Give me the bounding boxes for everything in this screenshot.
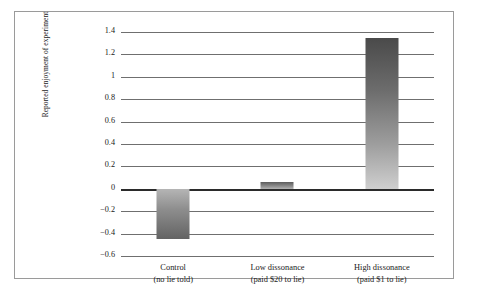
gridline xyxy=(121,256,434,257)
x-category-line1: Low dissonance xyxy=(250,263,304,272)
y-tick-label: −0.6 xyxy=(100,250,115,259)
y-tick-label: 0 xyxy=(111,183,115,192)
bar-low-dissonance[interactable] xyxy=(261,182,294,189)
bar-series xyxy=(121,32,434,256)
x-category-control: Control (no lie told) xyxy=(121,262,225,285)
y-tick-label: 0.4 xyxy=(105,138,115,147)
y-tick-label: 0.8 xyxy=(105,93,115,102)
y-tick-label: 1.4 xyxy=(105,26,115,35)
bar-slot-high-dissonance xyxy=(330,32,434,256)
y-axis-title: Reported enjoyment of experiment xyxy=(41,0,50,155)
bar-high-dissonance[interactable] xyxy=(365,38,398,189)
x-category-line2: (paid $1 to lie) xyxy=(330,274,434,286)
y-tick-label: 0.2 xyxy=(105,160,115,169)
x-category-high-dissonance: High dissonance (paid $1 to lie) xyxy=(330,262,434,285)
bar-slot-control xyxy=(121,32,225,256)
x-axis-labels: Control (no lie told) Low dissonance (pa… xyxy=(121,262,434,292)
x-category-low-dissonance: Low dissonance (paid $20 to lie) xyxy=(225,262,329,285)
bar-slot-low-dissonance xyxy=(225,32,329,256)
y-tick-label: 1.2 xyxy=(105,48,115,57)
x-category-line2: (no lie told) xyxy=(121,274,225,286)
bar-control[interactable] xyxy=(157,189,190,239)
y-tick-label: −0.2 xyxy=(100,205,115,214)
x-category-line2: (paid $20 to lie) xyxy=(225,274,329,286)
x-category-line1: High dissonance xyxy=(354,263,410,272)
y-tick-label: 1 xyxy=(111,71,115,80)
plot-area: 1.4 1.2 1 0.8 0.6 0.4 0.2 0 xyxy=(121,32,434,256)
x-category-line1: Control xyxy=(160,263,186,272)
chart-figure: Reported enjoyment of experiment 1.4 1.2… xyxy=(14,11,454,279)
y-tick-label: 0.6 xyxy=(105,116,115,125)
y-tick-label: −0.4 xyxy=(100,228,115,237)
